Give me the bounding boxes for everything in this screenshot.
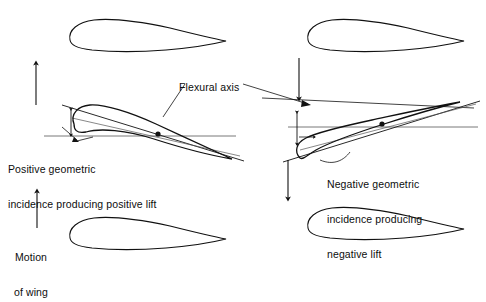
motion-of-wing-label: Motion of wing (14, 228, 48, 302)
flexural-axis-leader-right (243, 84, 311, 107)
positive-incidence-label: Positive geometric incidence producing p… (8, 140, 157, 234)
flexural-axis-text: Flexural axis (179, 81, 239, 93)
flexural-axis-point-right (379, 121, 384, 126)
motion-line1: Motion (14, 252, 48, 264)
negative-incidence-line2: incidence producing (327, 214, 422, 226)
positive-incidence-line1: Positive geometric (8, 164, 157, 176)
flexural-axis-point-left (155, 131, 160, 136)
positive-incidence-line2: incidence producing positive lift (8, 199, 157, 211)
motion-line2: of wing (14, 287, 48, 299)
top-right-airfoil (308, 19, 464, 51)
middle-right-diagram (262, 98, 480, 162)
negative-incidence-line3: negative lift (327, 249, 422, 261)
top-left-airfoil (70, 19, 226, 51)
negative-incidence-line1: Negative geometric (327, 179, 422, 191)
negative-incidence-label: Negative geometric incidence producing n… (327, 155, 422, 285)
flexural-axis-label: Flexural axis (167, 70, 239, 105)
